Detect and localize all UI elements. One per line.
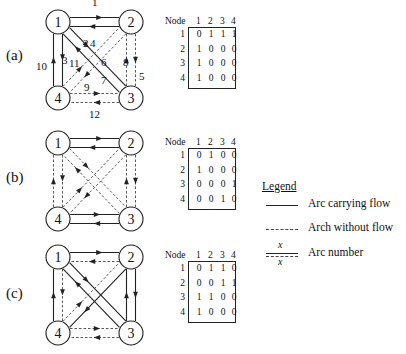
matrix-cell: 0 bbox=[229, 58, 239, 68]
matrix-cell: 0 bbox=[194, 150, 204, 160]
matrix-row-label: 2 bbox=[175, 278, 185, 288]
matrix-cell: 0 bbox=[218, 73, 228, 83]
arrowhead-icon bbox=[60, 289, 65, 295]
node-1-label: 1 bbox=[55, 15, 62, 30]
legend-title: Legend bbox=[262, 180, 296, 192]
arc-1-to-3 bbox=[70, 149, 126, 208]
matrix-cell: 1 bbox=[206, 29, 216, 39]
matrix-row-label: 4 bbox=[175, 194, 185, 204]
arc-number-8: 8 bbox=[123, 56, 129, 68]
arc-number-5: 5 bbox=[139, 70, 145, 82]
matrix-cell: 1 bbox=[194, 44, 204, 54]
adjacency-matrix-a: Node123410111210003100041000 bbox=[165, 16, 245, 96]
arrowhead-icon bbox=[124, 292, 129, 298]
arc-number-12: 12 bbox=[89, 108, 100, 120]
arc-number-2: 2 bbox=[83, 37, 89, 49]
arrowhead-icon bbox=[124, 178, 129, 184]
legend-item-flow: Arc carrying flow bbox=[308, 197, 390, 209]
arc-number-3: 3 bbox=[62, 54, 68, 66]
panel-label-c: (c) bbox=[6, 285, 23, 302]
arc-2-to-4 bbox=[70, 155, 126, 214]
arc-3-to-1 bbox=[63, 269, 119, 328]
arrowhead-icon bbox=[96, 250, 102, 255]
matrix-row-label: 4 bbox=[175, 307, 185, 317]
node-3-label: 3 bbox=[128, 212, 135, 227]
matrix-cell: 1 bbox=[194, 58, 204, 68]
solid-line-icon bbox=[266, 205, 298, 206]
arrowhead-icon bbox=[89, 24, 95, 29]
matrix-cell: 0 bbox=[206, 44, 216, 54]
matrix-cell: 0 bbox=[194, 278, 204, 288]
adjacency-matrix-b: Node123410100210003000140010 bbox=[165, 137, 245, 217]
matrix-cell: 0 bbox=[218, 307, 228, 317]
arc-2-to-4 bbox=[70, 269, 126, 328]
legend-item-no-flow: Arch without flow bbox=[308, 221, 393, 233]
matrix-row-label: 3 bbox=[175, 292, 185, 302]
matrix-row-label: 2 bbox=[175, 44, 185, 54]
node-4-label: 4 bbox=[55, 91, 62, 106]
node-1-label: 1 bbox=[55, 250, 62, 265]
arrowhead-icon bbox=[51, 57, 56, 63]
matrix-row-label: 1 bbox=[175, 150, 185, 160]
matrix-cell: 0 bbox=[206, 194, 216, 204]
matrix-cell: 1 bbox=[218, 263, 228, 273]
matrix-cell: 0 bbox=[229, 73, 239, 83]
arc-number-6: 6 bbox=[101, 56, 107, 68]
matrix-cell: 0 bbox=[206, 165, 216, 175]
arrowhead-icon bbox=[94, 335, 100, 340]
matrix-cell: 0 bbox=[229, 263, 239, 273]
node-2-label: 2 bbox=[128, 136, 135, 151]
matrix-cell: 0 bbox=[218, 58, 228, 68]
matrix-row-label: 3 bbox=[175, 179, 185, 189]
matrix-cell: 0 bbox=[218, 44, 228, 54]
arrowhead-icon bbox=[94, 212, 100, 217]
node-4-label: 4 bbox=[55, 326, 62, 341]
matrix-row-label: 1 bbox=[175, 263, 185, 273]
arrowhead-icon bbox=[60, 175, 65, 181]
arc-number-1: 1 bbox=[92, 0, 98, 8]
arrowhead-icon bbox=[84, 71, 90, 77]
matrix-cell: 0 bbox=[218, 150, 228, 160]
legend: Legend Arc carrying flow Arch without fl… bbox=[262, 180, 406, 270]
arrowhead-icon bbox=[75, 167, 81, 173]
node-3-label: 3 bbox=[128, 91, 135, 106]
matrix-cell: 1 bbox=[218, 194, 228, 204]
matrix-cell: 0 bbox=[194, 179, 204, 189]
arc-number-7: 7 bbox=[101, 74, 107, 86]
matrix-cell: 0 bbox=[229, 44, 239, 54]
node-3-label: 3 bbox=[128, 326, 135, 341]
arrowhead-icon bbox=[89, 145, 95, 150]
matrix-cell: 1 bbox=[218, 29, 228, 39]
matrix-cell: 1 bbox=[229, 29, 239, 39]
panel-label-b: (b) bbox=[6, 169, 24, 186]
matrix-cell: 0 bbox=[229, 150, 239, 160]
matrix-cell: 1 bbox=[229, 179, 239, 189]
matrix-cell: 1 bbox=[206, 292, 216, 302]
arrowhead-icon bbox=[133, 292, 138, 298]
matrix-cell: 0 bbox=[206, 179, 216, 189]
arrowhead-icon bbox=[94, 221, 100, 226]
matrix-row-label: 3 bbox=[175, 58, 185, 68]
matrix-cell: 0 bbox=[229, 194, 239, 204]
matrix-cell: 0 bbox=[218, 292, 228, 302]
matrix-cell: 1 bbox=[218, 278, 228, 288]
arc-number-9: 9 bbox=[84, 81, 90, 93]
arrowhead-icon bbox=[94, 91, 100, 96]
matrix-cell: 1 bbox=[194, 307, 204, 317]
panel-label-a: (a) bbox=[6, 47, 23, 64]
matrix-cell: 1 bbox=[194, 73, 204, 83]
arrowhead-icon bbox=[96, 136, 102, 141]
arrowhead-icon bbox=[94, 100, 100, 105]
arrowhead-icon bbox=[51, 292, 56, 298]
node-2-label: 2 bbox=[128, 250, 135, 265]
arrowhead-icon bbox=[96, 15, 102, 20]
arrowhead-icon bbox=[89, 259, 95, 264]
matrix-cell: 1 bbox=[206, 150, 216, 160]
matrix-cell: 0 bbox=[229, 165, 239, 175]
arc-4-to-2 bbox=[63, 149, 119, 208]
node-4-label: 4 bbox=[55, 212, 62, 227]
arc-4-to-2 bbox=[63, 263, 119, 322]
arrowhead-icon bbox=[94, 326, 100, 331]
arc-number-10: 10 bbox=[36, 60, 48, 72]
arrowhead-icon bbox=[51, 178, 56, 184]
